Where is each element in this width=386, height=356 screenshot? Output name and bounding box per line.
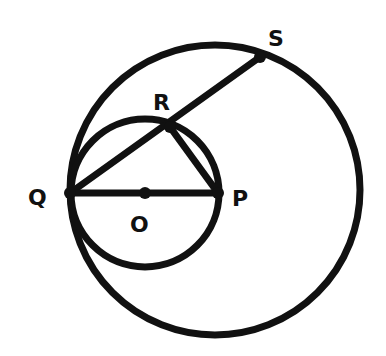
point-P [212,187,224,199]
geometry-diagram: S R Q O P [0,0,386,356]
point-Q [64,187,76,199]
label-P: P [232,186,248,211]
label-Q: Q [28,185,47,210]
label-O: O [130,212,149,237]
label-S: S [268,26,284,51]
point-S [254,51,266,63]
point-O [139,187,151,199]
label-R: R [153,90,170,115]
point-R [164,121,176,133]
